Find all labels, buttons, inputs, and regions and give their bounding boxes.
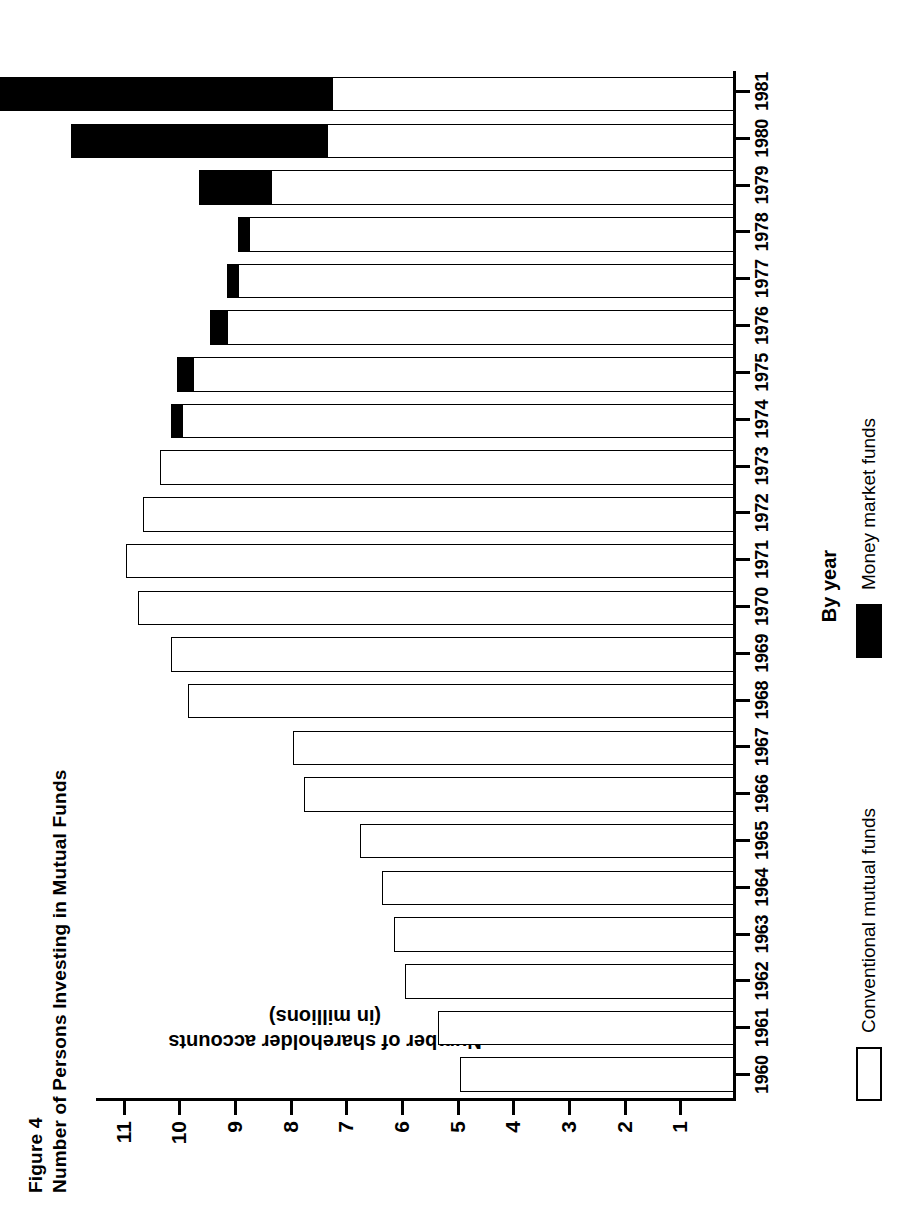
bar bbox=[238, 217, 733, 252]
x-tick-mark bbox=[736, 90, 750, 93]
figure-canvas: Figure 4 Number of Persons Investing in … bbox=[0, 0, 904, 1221]
bar-segment-conventional bbox=[304, 777, 733, 812]
bar-slot bbox=[96, 958, 733, 1005]
bar-segment-conventional bbox=[332, 77, 733, 112]
bar-slot bbox=[96, 351, 733, 398]
legend-swatch-conventional bbox=[856, 1047, 882, 1101]
x-tick-mark bbox=[736, 137, 750, 140]
bar bbox=[382, 871, 733, 906]
bar-segment-conventional bbox=[193, 357, 733, 392]
bar-slot bbox=[96, 444, 733, 491]
y-tick-mark bbox=[290, 1101, 293, 1115]
y-tick-mark bbox=[123, 1101, 126, 1115]
bar-segment-conventional bbox=[438, 1011, 733, 1046]
x-tick-label: 1969 bbox=[752, 630, 773, 677]
y-tick-mark bbox=[178, 1101, 181, 1115]
bar-slot bbox=[96, 491, 733, 538]
x-tick-mark bbox=[736, 1026, 750, 1029]
x-tick-mark bbox=[736, 184, 750, 187]
x-tick-mark bbox=[736, 652, 750, 655]
y-tick-label: 10 bbox=[167, 1121, 191, 1161]
x-tick-slot bbox=[736, 1051, 750, 1098]
x-tick-slot bbox=[736, 255, 750, 302]
bar-slot bbox=[96, 211, 733, 258]
legend-item: Money market funds bbox=[856, 418, 882, 658]
y-tick-mark bbox=[401, 1101, 404, 1115]
bar bbox=[460, 1057, 733, 1092]
y-tick-mark bbox=[512, 1101, 515, 1115]
bar-slot bbox=[96, 1005, 733, 1052]
x-tick-label: 1976 bbox=[752, 302, 773, 349]
figure-number: Figure 4 bbox=[24, 770, 48, 1193]
legend-label: Conventional mutual funds bbox=[858, 808, 880, 1033]
x-tick-mark bbox=[736, 792, 750, 795]
x-tick-label: 1978 bbox=[752, 209, 773, 256]
bar bbox=[188, 684, 733, 719]
bar bbox=[405, 964, 733, 999]
x-tick-label: 1965 bbox=[752, 817, 773, 864]
bar bbox=[71, 124, 733, 159]
x-tick-slot bbox=[736, 864, 750, 911]
x-tick-label: 1960 bbox=[752, 1051, 773, 1098]
x-tick-mark bbox=[736, 933, 750, 936]
bar-slot bbox=[96, 818, 733, 865]
bar-segment-money-market bbox=[177, 357, 194, 392]
y-tick-label: 5 bbox=[446, 1121, 470, 1161]
x-tick-label: 1967 bbox=[752, 724, 773, 771]
x-tick-slot bbox=[736, 536, 750, 583]
y-tick-label: 8 bbox=[279, 1121, 303, 1161]
y-tick-label: 3 bbox=[557, 1121, 581, 1161]
bar-slot bbox=[96, 398, 733, 445]
x-tick-slot bbox=[736, 583, 750, 630]
plot-area bbox=[96, 71, 736, 1101]
x-tick-slot bbox=[736, 817, 750, 864]
legend-label: Money market funds bbox=[858, 418, 880, 590]
bar-segment-conventional bbox=[382, 871, 733, 906]
bar bbox=[143, 497, 733, 532]
bar bbox=[0, 77, 733, 112]
bar-slot bbox=[96, 771, 733, 818]
x-tick-slot bbox=[736, 443, 750, 490]
x-tick-slot bbox=[736, 68, 750, 115]
x-axis-ticks: 1960196119621963196419651966196719681969… bbox=[736, 68, 806, 1098]
bar bbox=[171, 637, 733, 672]
bar-segment-money-market bbox=[171, 404, 182, 439]
bar-slot bbox=[96, 304, 733, 351]
y-tick-mark bbox=[624, 1101, 627, 1115]
bar-segment-money-market bbox=[210, 310, 227, 345]
bar-slot bbox=[96, 118, 733, 165]
y-tick-label: 11 bbox=[112, 1121, 136, 1161]
bar-slot bbox=[96, 71, 733, 118]
y-tick-label: 6 bbox=[390, 1121, 414, 1161]
x-tick-mark bbox=[736, 465, 750, 468]
bar-segment-conventional bbox=[126, 544, 733, 579]
bar bbox=[227, 264, 733, 299]
x-tick-slot bbox=[736, 724, 750, 771]
y-axis-line bbox=[96, 1098, 736, 1101]
bar-segment-conventional bbox=[360, 824, 733, 859]
bar-segment-money-market bbox=[71, 124, 327, 159]
x-tick-mark bbox=[736, 886, 750, 889]
chart-legend: Conventional mutual fundsMoney market fu… bbox=[856, 418, 882, 1101]
bar-segment-conventional bbox=[171, 637, 733, 672]
bar-slot bbox=[96, 911, 733, 958]
x-tick-label: 1961 bbox=[752, 1004, 773, 1051]
x-tick-mark bbox=[736, 558, 750, 561]
figure-heading: Figure 4 Number of Persons Investing in … bbox=[24, 770, 72, 1193]
x-tick-label: 1977 bbox=[752, 255, 773, 302]
x-tick-slot bbox=[736, 958, 750, 1005]
bar bbox=[171, 404, 733, 439]
bar-segment-conventional bbox=[394, 917, 733, 952]
bar-segment-conventional bbox=[182, 404, 733, 439]
x-axis-title: By year bbox=[818, 71, 841, 1101]
y-tick-label: 1 bbox=[668, 1121, 692, 1161]
rotated-figure-wrapper: Figure 4 Number of Persons Investing in … bbox=[0, 0, 904, 1221]
x-tick-label: 1963 bbox=[752, 911, 773, 958]
x-label-row: 1960196119621963196419651966196719681969… bbox=[752, 68, 773, 1098]
y-tick-label: 7 bbox=[334, 1121, 358, 1161]
x-tick-slot bbox=[736, 630, 750, 677]
x-tick-slot bbox=[736, 396, 750, 443]
bar bbox=[438, 1011, 733, 1046]
bar bbox=[304, 777, 733, 812]
x-tick-mark bbox=[736, 277, 750, 280]
